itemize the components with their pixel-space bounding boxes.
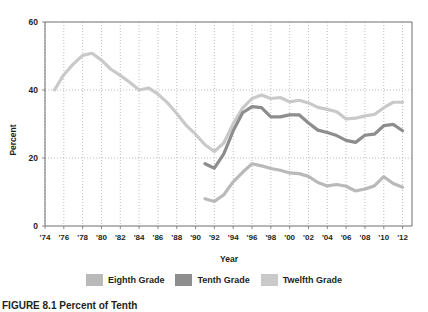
x-tick-label: '06: [341, 233, 352, 242]
x-tick-label: '98: [265, 233, 276, 242]
x-tick-label: '74: [40, 233, 51, 242]
series-line-twelfth-grade: [54, 53, 402, 151]
legend-item-eighth-grade: Eighth Grade: [86, 274, 165, 286]
tick-label-layer: '74'76'78'80'82'84'86'88'90'92'94'96'98'…: [29, 17, 409, 242]
y-tick-label: 60: [29, 17, 39, 27]
x-tick-label: '96: [247, 233, 258, 242]
x-tick-label: '08: [360, 233, 371, 242]
y-tick-label: 0: [33, 221, 38, 231]
legend-swatch-tenth-grade: [175, 274, 192, 286]
x-tick-label: '90: [190, 233, 201, 242]
figure-panel: '74'76'78'80'82'84'86'88'90'92'94'96'98'…: [0, 0, 428, 312]
x-tick-label: '10: [378, 233, 389, 242]
x-tick-label: '78: [77, 233, 88, 242]
series-layer: [54, 53, 402, 201]
chart-legend: Eighth Grade Tenth Grade Twelfth Grade: [0, 274, 428, 286]
x-tick-label: '82: [115, 233, 126, 242]
x-tick-label: '92: [209, 233, 220, 242]
x-tick-label: '04: [322, 233, 333, 242]
legend-item-tenth-grade: Tenth Grade: [175, 274, 249, 286]
x-tick-label: '86: [153, 233, 164, 242]
legend-swatch-eighth-grade: [86, 274, 103, 286]
legend-label-tenth-grade: Tenth Grade: [197, 275, 249, 285]
x-tick-label: '76: [58, 233, 69, 242]
x-tick-label: '12: [397, 233, 408, 242]
legend-label-eighth-grade: Eighth Grade: [108, 275, 165, 285]
y-tick-label: 20: [29, 153, 39, 163]
y-tick-label: 40: [29, 85, 39, 95]
legend-swatch-twelfth-grade: [261, 274, 278, 286]
series-line-eighth-grade: [205, 164, 403, 202]
x-tick-label: '88: [171, 233, 182, 242]
x-tick-label: '80: [96, 233, 107, 242]
x-tick-label: '02: [303, 233, 314, 242]
x-tick-label: '84: [134, 233, 145, 242]
line-chart: '74'76'78'80'82'84'86'88'90'92'94'96'98'…: [0, 0, 428, 312]
legend-item-twelfth-grade: Twelfth Grade: [261, 274, 342, 286]
figure-caption: FIGURE 8.1 Percent of Tenth: [2, 300, 426, 312]
y-axis-title: Percent: [8, 124, 18, 155]
axes-layer: [42, 22, 412, 229]
x-axis-title: Year: [220, 254, 239, 264]
x-tick-label: '94: [228, 233, 239, 242]
legend-label-twelfth-grade: Twelfth Grade: [283, 275, 342, 285]
grid-layer: [45, 22, 412, 226]
x-tick-label: '00: [284, 233, 295, 242]
